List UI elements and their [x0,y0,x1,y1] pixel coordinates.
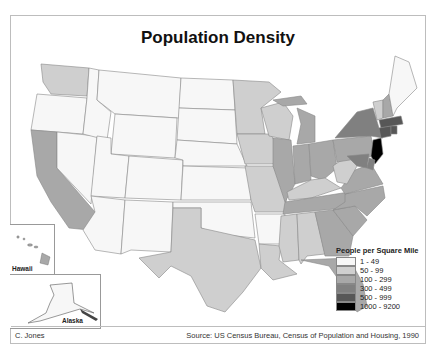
state-or [31,94,87,134]
alaska-label: Alaska [62,317,83,324]
legend-label: 50 - 99 [360,266,383,275]
legend-item: 300 - 499 [336,284,419,293]
legend-label: 100 - 299 [360,275,392,284]
legend-item: 1000 - 9200 [336,302,419,311]
legend-swatch [336,284,356,293]
legend-label: 500 - 999 [360,293,392,302]
legend-swatch [336,257,356,266]
legend-title: People per Square Mile [336,246,419,255]
state-wa [41,64,89,96]
legend-item: 500 - 999 [336,293,419,302]
state-oh [309,140,337,180]
footer: C. Jones Source: US Census Bureau, Censu… [11,326,425,343]
hawaii-inset: Hawaii [10,224,55,276]
legend-item: 100 - 299 [336,275,419,284]
state-nm [121,200,173,254]
state-nd [179,78,235,110]
alaska-inset: Alaska [10,274,101,329]
source-credit: Source: US Census Bureau, Census of Popu… [186,331,419,340]
state-ms [279,214,299,262]
legend-swatch [336,302,356,311]
state-sd [177,108,237,144]
legend-label: 1000 - 9200 [360,302,400,311]
map-frame: Population Density [10,15,426,344]
legend-swatch [336,266,356,275]
state-ks [181,166,251,200]
state-ne [175,140,247,166]
alaska-map [10,275,100,328]
state-ri [391,126,397,134]
state-in [293,144,311,184]
state-wy [111,114,177,158]
legend: People per Square Mile 1 - 49 50 - 99 10… [336,246,419,311]
hawaii-label: Hawaii [12,265,33,272]
author-credit: C. Jones [15,331,45,340]
legend-swatch [336,293,356,302]
legend-label: 1 - 49 [360,257,379,266]
state-me [389,56,417,116]
state-co [125,156,183,200]
legend-swatch [336,275,356,284]
state-ct [379,126,391,138]
legend-label: 300 - 499 [360,284,392,293]
legend-item: 50 - 99 [336,266,419,275]
state-az [83,196,125,254]
legend-item: 1 - 49 [336,257,419,266]
